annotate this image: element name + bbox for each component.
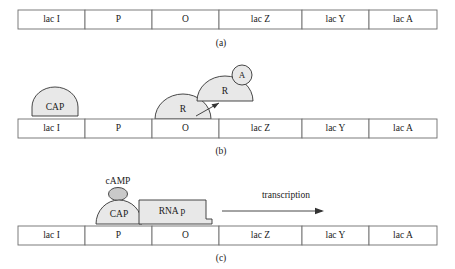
allolactose-b[interactable]: A: [232, 65, 252, 85]
gene-label-lac-z-b: lac Z: [251, 123, 270, 133]
gene-label-lac-y-c: lac Y: [326, 230, 346, 240]
gene-label-lac-i-c: lac I: [43, 230, 60, 240]
gene-label-operator-c: O: [182, 230, 189, 240]
panel-a: lac I P O lac Z lac Y lac A (a): [18, 10, 437, 49]
lac-operon-figure: lac I P O lac Z lac Y lac A (a) CAP R R: [0, 0, 455, 269]
transcription-arrow-head: [315, 208, 324, 214]
cap-label-b: CAP: [46, 102, 64, 112]
panel-caption-b: (b): [215, 146, 226, 157]
operon-bar-c: lac I P O lac Z lac Y lac A: [18, 226, 437, 245]
transcription-arrow: [222, 208, 324, 214]
gene-label-promoter: P: [116, 14, 121, 24]
gene-label-lac-i: lac I: [43, 14, 60, 24]
panel-b: CAP R R A lac I: [18, 65, 437, 157]
gene-label-lac-z: lac Z: [251, 14, 270, 24]
gene-label-lac-a-c: lac A: [393, 230, 413, 240]
gene-label-lac-i-b: lac I: [43, 123, 60, 133]
gene-label-lac-z-c: lac Z: [251, 230, 270, 240]
allolactose-label: A: [239, 70, 246, 80]
cap-label-c: CAP: [110, 209, 128, 219]
repressor-label-bound: R: [180, 104, 187, 114]
gene-label-promoter-b: P: [116, 123, 121, 133]
panel-c: cAMP CAP RNA p transcription lac I P: [18, 176, 437, 264]
gene-label-lac-a-b: lac A: [393, 123, 413, 133]
operon-bar-a: lac I P O lac Z lac Y lac A: [18, 10, 437, 29]
camp-molecule-shape[interactable]: [109, 188, 128, 201]
diagram-canvas: lac I P O lac Z lac Y lac A (a) CAP R R: [0, 0, 455, 269]
rna-polymerase-c[interactable]: RNA p: [139, 200, 212, 224]
cap-protein-b[interactable]: CAP: [32, 87, 78, 116]
gene-label-operator: O: [182, 14, 189, 24]
panel-caption-c: (c): [216, 253, 227, 264]
panel-caption-a: (a): [216, 38, 227, 49]
repressor-label-free: R: [222, 86, 229, 96]
gene-label-lac-y: lac Y: [326, 14, 346, 24]
rna-polymerase-label: RNA p: [159, 206, 186, 216]
camp-label: cAMP: [106, 176, 131, 186]
gene-label-lac-a: lac A: [393, 14, 413, 24]
operon-bar-b: lac I P O lac Z lac Y lac A: [18, 119, 437, 138]
repressor-release-arrow-head: [212, 103, 220, 109]
gene-label-promoter-c: P: [116, 230, 121, 240]
gene-label-lac-y-b: lac Y: [326, 123, 346, 133]
gene-label-operator-b: O: [182, 123, 189, 133]
transcription-label: transcription: [262, 190, 310, 200]
cap-protein-c[interactable]: CAP: [96, 200, 142, 224]
